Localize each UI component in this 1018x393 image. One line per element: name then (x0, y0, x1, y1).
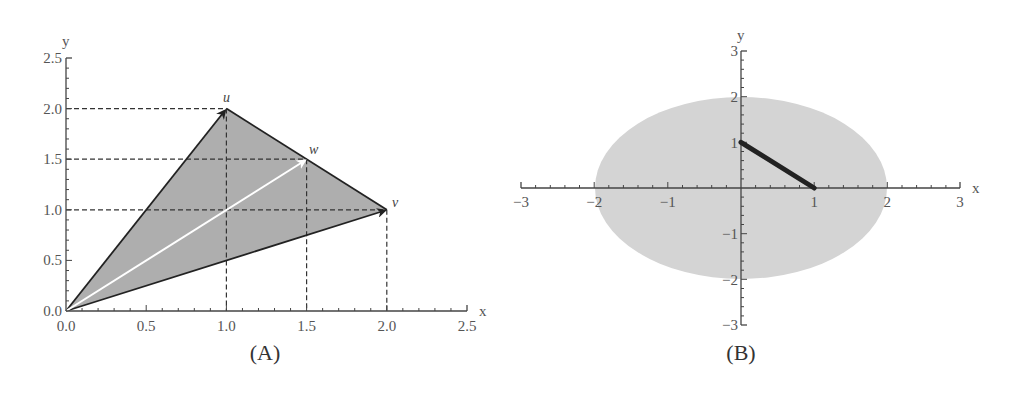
x-tick-label-a: 0.5 (137, 318, 156, 334)
y-tick-label-a: 0.5 (43, 252, 62, 268)
vector-label-u: u (223, 90, 230, 105)
x-tick-label-a: 0.0 (57, 318, 76, 334)
y-tick-label-a: 1.0 (43, 202, 62, 218)
y-tick-label-a: 1.5 (43, 151, 62, 167)
y-ticks-a (66, 68, 72, 301)
y-tick-label-a: 2.0 (43, 101, 62, 117)
y-tick-label-b: 3 (731, 43, 739, 59)
x-tick-label-b: 1 (810, 194, 818, 210)
x-tick-label-b: −3 (513, 194, 529, 210)
x-tick-label-b: −1 (660, 194, 676, 210)
x-tick-label-a: 1.5 (297, 318, 316, 334)
y-tick-label-b: −3 (722, 317, 738, 333)
x-tick-label-b: −2 (586, 194, 602, 210)
figure-canvas: 0.0 0.5 1.0 1.5 2.0 2.5 0.0 0.5 1.0 1.5 … (0, 0, 1018, 393)
x-ticks-a (82, 305, 451, 311)
y-tick-label-b: −1 (722, 226, 738, 242)
y-tick-label-b: 1 (731, 135, 739, 151)
vector-label-w: w (309, 142, 319, 157)
chart-a: 0.0 0.5 1.0 1.5 2.0 2.5 0.0 0.5 1.0 1.5 … (43, 33, 487, 365)
x-tick-label-a: 1.0 (217, 318, 236, 334)
vector-label-v: v (392, 195, 399, 210)
x-axis-label-a: x (479, 303, 487, 319)
panel-label-b: (B) (726, 340, 755, 365)
panel-label-a: (A) (250, 340, 281, 365)
y-axis-label-a: y (62, 33, 70, 49)
chart-b: −3 −2 −1 1 2 3 3 2 1 −1 −2 −3 x y (B) (513, 27, 980, 365)
x-axis-label-b: x (972, 180, 980, 196)
y-tick-label-b: 2 (731, 89, 739, 105)
x-tick-label-a: 2.5 (458, 318, 477, 334)
y-axis-label-b: y (737, 27, 745, 43)
y-tick-label-a: 2.5 (43, 50, 62, 66)
x-tick-label-b: 2 (884, 194, 892, 210)
y-tick-label-a: 0.0 (43, 303, 62, 319)
y-tick-label-b: −2 (722, 272, 738, 288)
x-tick-label-b: 3 (956, 194, 964, 210)
x-tick-label-a: 2.0 (377, 318, 396, 334)
